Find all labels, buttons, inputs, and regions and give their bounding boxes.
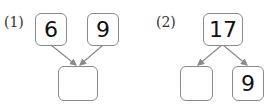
arrow-2-left: [198, 45, 222, 65]
arrow-1-left: [51, 45, 76, 65]
problem-2-top-box: 17: [203, 13, 243, 46]
problem-1-top-left-box: 6: [35, 13, 67, 46]
problem-2-label: (2): [156, 14, 176, 30]
problem-1-top-right-box: 9: [87, 13, 119, 46]
arrow-1-right: [80, 45, 103, 65]
problem-1-label: (1): [4, 14, 24, 30]
problem-2-answer-box[interactable]: [180, 66, 213, 101]
problem-1-answer-box[interactable]: [58, 66, 98, 101]
problem-2-bottom-right-box: 9: [232, 66, 264, 101]
arrow-2-right: [223, 45, 247, 65]
